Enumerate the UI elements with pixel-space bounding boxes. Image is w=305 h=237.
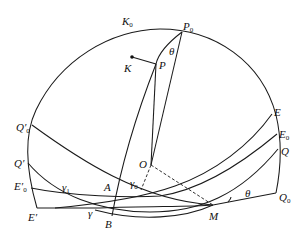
diagram-canvas: K0 P0 θ K P Q′0 Q′ E′0 E′ γ1 γ A B O γ0 … [0, 0, 305, 237]
line-p0-o [151, 32, 182, 165]
label-k0: K0 [121, 15, 133, 29]
label-theta-bottom: θ [245, 187, 251, 199]
label-b: B [105, 218, 112, 230]
label-q: Q [281, 145, 289, 157]
label-e0: E0 [278, 128, 290, 142]
label-a: A [103, 181, 111, 193]
label-theta-top: θ [169, 45, 175, 57]
label-p0: P0 [182, 20, 194, 34]
celestial-sphere-diagram: K0 P0 θ K P Q′0 Q′ E′0 E′ γ1 γ A B O γ0 … [0, 0, 305, 237]
label-qprime: Q′ [14, 157, 25, 169]
label-o: O [139, 158, 147, 170]
arc-p0-b [112, 32, 182, 216]
point-k [130, 55, 134, 59]
label-e0prime: E′0 [13, 180, 27, 194]
label-k: K [123, 62, 132, 74]
label-q0prime: Q′0 [16, 121, 30, 135]
label-eprime: E′ [27, 211, 38, 223]
dashed-o-m [151, 165, 213, 205]
label-m: M [208, 210, 219, 222]
label-gamma1: γ1 [62, 181, 70, 195]
arc-eprime-e [55, 114, 272, 208]
line-k-p [132, 57, 156, 64]
line-p-o [151, 64, 156, 165]
label-q0: Q0 [279, 191, 291, 205]
label-gamma: γ [88, 207, 93, 219]
label-p: P [158, 59, 166, 71]
arc-q0prime-m [32, 125, 213, 205]
label-gamma0: γ0 [130, 177, 138, 191]
label-e: E [273, 106, 281, 118]
